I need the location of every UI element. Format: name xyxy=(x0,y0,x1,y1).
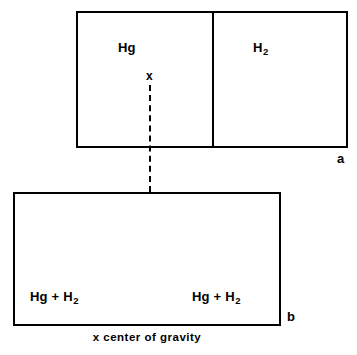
center-of-gravity-marker: x xyxy=(146,70,153,82)
compartment-label-mercury: Hg xyxy=(118,41,136,54)
compartment-label-hydrogen-subscript: 2 xyxy=(263,46,268,57)
compartment-label-hydrogen: H2 xyxy=(253,41,268,54)
compartment-label-mixture-left-formula: Hg + H xyxy=(30,289,73,304)
compartment-label-mixture-right-subscript: 2 xyxy=(235,295,240,306)
compartment-label-mixture-left-subscript: 2 xyxy=(73,295,78,306)
compartment-label-mixture-right: Hg + H2 xyxy=(192,290,240,303)
compartment-label-mixture-left: Hg + H2 xyxy=(30,290,78,303)
vessel-partition xyxy=(212,11,214,148)
compartment-label-mercury-formula: Hg xyxy=(118,40,136,55)
panel-letter-a: a xyxy=(337,152,344,165)
compartment-label-hydrogen-formula: H xyxy=(253,40,263,55)
diagram-canvas: Hg H2 x a Hg + H2 Hg + H2 b x center of … xyxy=(0,0,357,355)
figure-caption: x center of gravity xyxy=(13,332,281,344)
panel-letter-b: b xyxy=(287,310,295,323)
compartment-label-mixture-right-formula: Hg + H xyxy=(192,289,235,304)
vessel-panel-a xyxy=(76,11,348,148)
center-of-gravity-leader-line xyxy=(149,85,151,192)
